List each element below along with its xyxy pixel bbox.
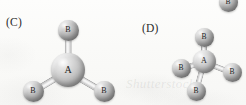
atom-label: B: [65, 26, 70, 34]
background-watermark-text: Shutterstock: [126, 76, 195, 92]
panel-label-d: (D): [142, 22, 159, 34]
terminal-atom-b-bottom-left: B: [23, 81, 44, 102]
terminal-atom-b-right: B: [223, 63, 242, 82]
atom-label: B: [178, 64, 183, 72]
atom-label: B: [193, 87, 198, 95]
terminal-atom-b-bottom: B: [187, 82, 206, 101]
atom-label: B: [225, 0, 230, 6]
atom-label: B: [101, 87, 106, 95]
panel-label-c: (C): [6, 16, 22, 28]
terminal-atom-b-left: B: [172, 59, 191, 78]
atom-label: A: [64, 65, 71, 75]
terminal-atom-b-bottom-right: B: [94, 81, 115, 102]
terminal-atom-b-top: B: [195, 28, 214, 47]
atom-label: B: [201, 33, 206, 41]
atom-label: B: [229, 68, 234, 76]
central-atom-a: A: [193, 50, 216, 73]
figure-canvas: Shutterstock ABBBABBBBB (C)(D): [0, 0, 246, 105]
cropped-atom-b-top-right: B: [219, 0, 238, 12]
terminal-atom-b-top: B: [58, 20, 79, 41]
atom-label: B: [30, 87, 35, 95]
central-atom-a: A: [51, 53, 85, 87]
atom-label: A: [201, 57, 207, 65]
